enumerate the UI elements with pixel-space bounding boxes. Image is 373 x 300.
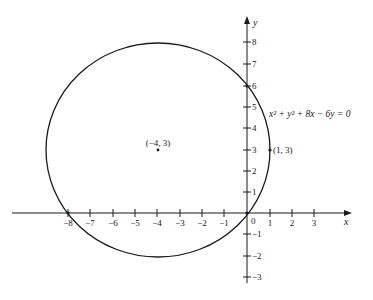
y-tick-label: −3 (252, 272, 262, 282)
x-tick-labels: −8 −7 −6 −5 −4 −3 −2 −1 1 2 3 0 (63, 216, 317, 228)
y-tick-labels: 8 7 6 5 4 3 2 1 −1 −2 −3 (252, 37, 262, 282)
x-axis-label: x (343, 216, 349, 227)
x-tick-label: 1 (268, 218, 273, 228)
y-tick-label: 6 (252, 81, 257, 91)
x-tick-label: −6 (108, 218, 118, 228)
x-tick-label: 3 (312, 218, 317, 228)
origin-label: 0 (251, 216, 256, 226)
center-point-label: (−4, 3) (146, 138, 171, 148)
y-tick-label: −2 (252, 251, 262, 261)
x-intercept-point (66, 211, 69, 214)
circle-graph: x −8 −7 −6 −5 −4 −3 −2 −1 1 2 3 0 y (0, 0, 373, 300)
y-tick-label: 8 (252, 37, 257, 47)
x-tick-label: −4 (152, 218, 162, 228)
x-tick-label: 2 (290, 218, 295, 228)
equation-label: x² + y² + 8x − 6y = 0 (268, 109, 351, 119)
y-axis-arrow-icon (244, 16, 250, 24)
x-tick-label: −7 (85, 218, 95, 228)
y-tick-label: 5 (252, 102, 257, 112)
center-point (157, 149, 160, 152)
x-tick-label: −1 (219, 218, 229, 228)
y-tick-label: 7 (252, 59, 257, 69)
right-point (268, 148, 271, 151)
y-tick-label: 1 (252, 187, 257, 197)
y-tick-label: 2 (252, 166, 257, 176)
right-point-label: (1, 3) (273, 145, 293, 155)
y-tick-label: −1 (252, 229, 262, 239)
y-intercept-point (245, 84, 248, 87)
y-tick-label: 3 (252, 145, 257, 155)
y-axis-label: y (252, 17, 258, 28)
x-tick-label: −5 (130, 218, 140, 228)
origin-point (245, 211, 248, 214)
x-tick-label: −8 (63, 218, 73, 228)
x-tick-label: −3 (175, 218, 185, 228)
y-tick-label: 4 (252, 123, 257, 133)
x-tick-label: −2 (197, 218, 207, 228)
